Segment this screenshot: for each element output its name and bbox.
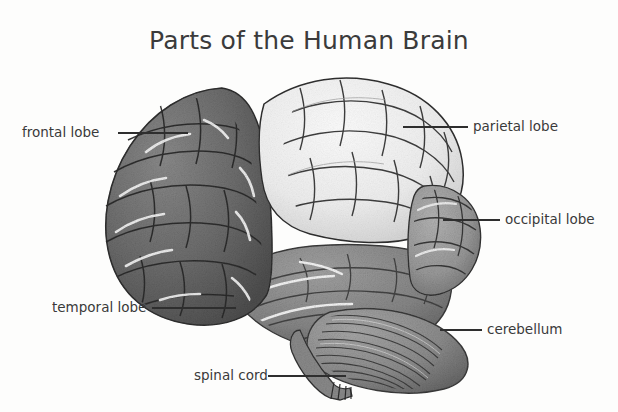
label-occipital-lobe: occipital lobe — [505, 213, 595, 227]
leader-line-parietal-lobe — [403, 126, 468, 128]
label-parietal-lobe: parietal lobe — [473, 120, 558, 134]
label-temporal-lobe: temporal lobe — [52, 301, 146, 315]
region-occipital-lobe — [408, 185, 481, 295]
brain-svg — [0, 0, 618, 412]
leader-line-temporal-lobe — [152, 307, 236, 309]
label-spinal-cord: spinal cord — [194, 369, 268, 383]
label-cerebellum: cerebellum — [487, 323, 562, 337]
brain-illustration — [0, 0, 618, 412]
brain-diagram-figure: Parts of the Human Brain — [0, 0, 618, 412]
label-frontal-lobe: frontal lobe — [22, 126, 99, 140]
region-frontal-lobe — [106, 88, 272, 325]
leader-line-frontal-lobe — [118, 132, 188, 134]
leader-line-occipital-lobe — [443, 219, 500, 221]
leader-line-cerebellum — [440, 329, 482, 331]
leader-line-spinal-cord — [268, 375, 346, 377]
